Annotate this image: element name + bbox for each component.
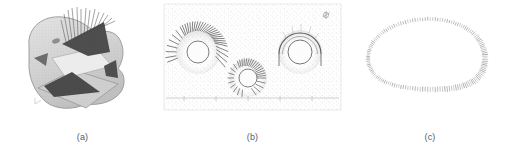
boundary-tick xyxy=(466,28,468,31)
boundary-tick xyxy=(401,85,402,88)
boundary-tick xyxy=(461,84,462,89)
boundary-tick xyxy=(372,71,374,72)
boundary-tick xyxy=(382,31,384,33)
boundary-tick xyxy=(455,85,456,90)
boundary-tick xyxy=(390,82,391,85)
boundary-tick xyxy=(449,86,450,91)
panel-b: (b) xyxy=(160,0,345,163)
boundary-tick xyxy=(471,31,473,33)
tunnel-cross-sections-svg xyxy=(160,0,345,130)
boundary-tick xyxy=(451,21,452,24)
boundary-tick xyxy=(396,84,397,87)
boundary-tick xyxy=(412,19,413,22)
boundary-tick xyxy=(461,25,462,28)
boundary-tick xyxy=(396,24,397,26)
boundary-tick xyxy=(376,37,378,39)
boundary-tick xyxy=(368,49,371,50)
boundary-tick xyxy=(482,53,487,54)
panel-a-caption: (a) xyxy=(0,132,165,142)
boundary-tick xyxy=(374,74,376,76)
boundary-tick xyxy=(388,28,389,30)
boundary-tick xyxy=(482,51,486,52)
boundary-tick xyxy=(381,33,382,35)
boundary-tick xyxy=(374,75,376,77)
boundary-tick xyxy=(386,29,387,31)
boundary-tick xyxy=(457,23,458,26)
boundary-tick xyxy=(369,67,371,68)
figure-three-panel: (a) xyxy=(0,0,515,163)
boundary-tick xyxy=(455,22,456,25)
boundary-tick xyxy=(459,84,460,90)
panel-a: (a) xyxy=(0,0,165,163)
boundary-tick xyxy=(370,70,372,71)
boundary-tick xyxy=(453,85,454,90)
panel-a-artwork xyxy=(0,0,165,130)
boundary-tick xyxy=(482,64,487,65)
boundary-tick xyxy=(367,64,370,65)
boundary-tick xyxy=(480,44,484,46)
boundary-tick xyxy=(368,66,370,67)
boundary-tick xyxy=(468,28,470,31)
boundary-tick xyxy=(481,67,486,69)
boundary-tick-marks xyxy=(366,17,488,92)
boundary-tick xyxy=(451,86,452,90)
boundary-tick xyxy=(374,38,376,40)
boundary-tick xyxy=(371,44,373,45)
boundary-tick xyxy=(372,41,375,43)
boundary-tick xyxy=(481,47,485,48)
axis-tick-mark xyxy=(35,98,41,104)
panel-c-caption: (c) xyxy=(345,132,515,142)
boundary-tick xyxy=(464,26,466,29)
boundary-tick xyxy=(469,30,471,32)
tunnel-right-bore xyxy=(288,40,312,64)
boundary-tick xyxy=(463,83,465,88)
boundary-tick xyxy=(447,19,448,22)
panel-b-caption: (b) xyxy=(160,132,345,142)
boundary-tick xyxy=(367,53,370,54)
boundary-tick xyxy=(384,30,386,33)
boundary-tick xyxy=(466,82,468,87)
boundary-tick xyxy=(398,23,399,25)
boundary-tick xyxy=(463,25,464,28)
boundary-tick xyxy=(453,21,454,24)
boundary-tick xyxy=(386,82,387,84)
tunnel-middle-bore xyxy=(239,69,257,87)
boundary-tick xyxy=(369,68,372,70)
boundary-tick xyxy=(449,21,450,23)
boundary-tick xyxy=(378,77,380,79)
boundary-tick xyxy=(367,51,370,52)
boundary-tick xyxy=(407,20,408,23)
boundary-ticks-svg xyxy=(345,0,515,130)
boundary-tick xyxy=(389,26,391,29)
boundary-tick xyxy=(388,82,389,84)
boundary-tick xyxy=(394,84,395,87)
boundary-tick xyxy=(369,48,372,49)
boundary-tick xyxy=(369,46,372,48)
boundary-tick xyxy=(480,46,484,48)
panel-c: (c) xyxy=(345,0,515,163)
boundary-tick xyxy=(479,42,483,44)
boundary-tick xyxy=(377,35,379,37)
boundary-tick xyxy=(473,34,475,36)
boundary-tick xyxy=(465,83,467,88)
boundary-tick xyxy=(376,76,378,78)
boundary-tick xyxy=(405,21,406,24)
boundary-tick xyxy=(399,85,400,88)
boundary-tick xyxy=(482,54,487,55)
boundary-tick xyxy=(483,61,488,62)
panel-c-artwork xyxy=(345,0,515,130)
boundary-tick xyxy=(442,18,443,21)
boundary-tick xyxy=(383,80,384,82)
boundary-tick xyxy=(374,40,376,42)
panel-b-artwork xyxy=(160,0,345,130)
boundary-tick xyxy=(379,34,381,36)
boundary-tick xyxy=(371,43,373,44)
boundary-tick xyxy=(482,63,487,64)
boundary-tick xyxy=(447,87,448,92)
boundary-tick xyxy=(481,49,486,50)
boundary-tick xyxy=(372,72,374,74)
boundary-tick xyxy=(381,79,383,82)
boundary-tick xyxy=(459,23,460,26)
boundary-tick xyxy=(457,85,458,90)
surface-mesh-svg xyxy=(0,0,165,130)
